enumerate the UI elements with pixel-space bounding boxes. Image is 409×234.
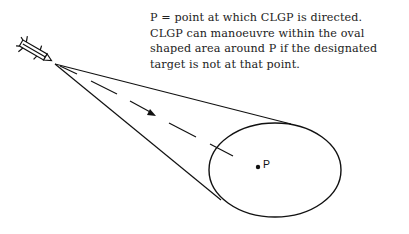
caption-line: shaped area around P if the designated <box>150 41 409 57</box>
arrow-icon <box>147 109 156 116</box>
guidance-path <box>60 66 233 156</box>
point-p-label: P <box>263 158 270 170</box>
target-area-oval <box>209 123 341 217</box>
cone-lower-line <box>55 64 221 200</box>
cone-upper-line <box>55 64 291 124</box>
caption-line: target is not at that point. <box>150 57 409 73</box>
caption-line: CLGP can manoeuvre within the oval <box>150 26 409 42</box>
missile-icon <box>14 34 56 69</box>
point-p-marker <box>256 165 260 169</box>
caption-line: P = point at which CLGP is directed. <box>150 10 409 26</box>
caption-text: P = point at which CLGP is directed. CLG… <box>150 10 409 72</box>
